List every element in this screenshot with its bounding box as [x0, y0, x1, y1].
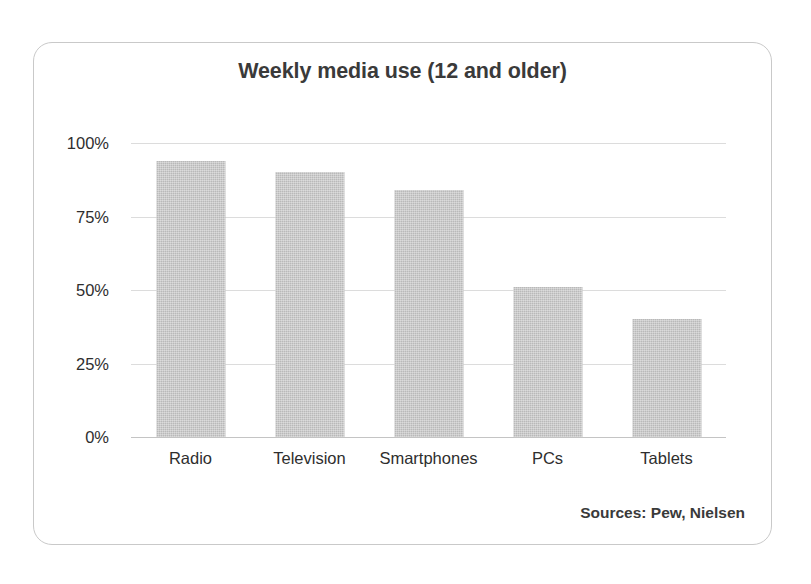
gridline	[131, 437, 726, 438]
x-axis-tick-label: Tablets	[640, 449, 692, 468]
x-tick-slot: Smartphones	[369, 143, 488, 437]
y-axis-tick-label: 75%	[76, 207, 109, 226]
plot-area: 0%25%50%75%100% RadioTelevisionSmartphon…	[131, 143, 726, 437]
chart-title: Weekly media use (12 and older)	[34, 59, 771, 84]
y-axis-tick-label: 0%	[85, 428, 109, 447]
x-axis-tick-label: Smartphones	[379, 449, 477, 468]
x-tick-slot: Television	[250, 143, 369, 437]
x-tick-slot: Tablets	[607, 143, 726, 437]
source-note: Sources: Pew, Nielsen	[580, 504, 745, 522]
y-axis-tick-label: 100%	[67, 134, 109, 153]
x-tick-slot: Radio	[131, 143, 250, 437]
x-axis-tick-label: PCs	[532, 449, 563, 468]
y-axis-tick-label: 50%	[76, 281, 109, 300]
x-tick-slot: PCs	[488, 143, 607, 437]
y-axis-tick-label: 25%	[76, 354, 109, 373]
chart-card: Weekly media use (12 and older) 0%25%50%…	[33, 42, 772, 545]
x-axis-tick-label: Television	[273, 449, 345, 468]
x-axis-tick-label: Radio	[169, 449, 212, 468]
